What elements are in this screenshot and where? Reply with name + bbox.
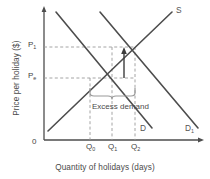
x-tick-q2: Q2 xyxy=(131,143,140,151)
x-tick-q0: Q0 xyxy=(86,143,95,151)
curves xyxy=(48,12,198,131)
x-tick-q1-subscript: 1 xyxy=(114,146,117,152)
supply-curve xyxy=(48,12,172,131)
excess-demand-label: Excess demand xyxy=(92,103,149,111)
y-axis-arrowhead xyxy=(42,6,47,12)
demand-shifted-subscript: 1 xyxy=(191,128,194,134)
chart-canvas xyxy=(0,0,210,179)
price-rise-arrow-icon xyxy=(121,47,127,78)
axes xyxy=(42,6,204,142)
x-axis-arrowhead xyxy=(198,138,204,143)
y-tick-pe-subscript: e xyxy=(33,75,36,81)
demand-shifted-curve-label: D1 xyxy=(185,124,194,132)
supply-curve-label: S xyxy=(176,6,182,14)
x-tick-q0-subscript: 0 xyxy=(92,146,95,152)
y-axis-title: Price per holiday ($) xyxy=(13,30,21,126)
y-tick-p1-subscript: 1 xyxy=(33,44,36,50)
x-tick-q2-subscript: 2 xyxy=(137,146,140,152)
excess-demand-brace-icon xyxy=(90,88,135,99)
origin-label: 0 xyxy=(32,138,36,146)
supply-demand-chart: Price per holiday ($) Quantity of holida… xyxy=(0,0,210,179)
x-axis-title: Quantity of holidays (days) xyxy=(0,164,210,172)
demand-curve-label: D xyxy=(140,124,146,132)
y-tick-p1: P1 xyxy=(28,41,36,49)
y-tick-pe: Pe xyxy=(28,72,36,80)
x-tick-q1: Q1 xyxy=(108,143,117,151)
